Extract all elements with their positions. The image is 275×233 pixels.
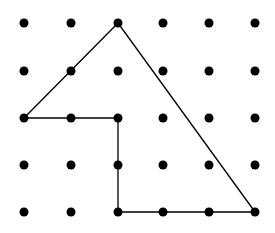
grid-dot [159, 19, 168, 28]
grid-dot [205, 208, 214, 217]
grid-dot [114, 114, 123, 123]
grid-dot [251, 19, 260, 28]
grid-dot [205, 161, 214, 170]
grid-dot [159, 208, 168, 217]
grid-dot [205, 114, 214, 123]
dot-grid-diagram [0, 0, 275, 233]
polygon-outline [24, 23, 255, 212]
grid-dot [67, 19, 76, 28]
polygon-shape [24, 23, 255, 212]
grid-dot [20, 19, 29, 28]
grid-dot [67, 67, 76, 76]
grid-dot [114, 19, 123, 28]
grid-dot [114, 67, 123, 76]
grid-dot [251, 67, 260, 76]
grid-dot [20, 208, 29, 217]
grid-dot [20, 114, 29, 123]
grid-dot [251, 161, 260, 170]
grid-dot [205, 19, 214, 28]
grid-dot [251, 208, 260, 217]
grid-dot [67, 114, 76, 123]
grid-dot [67, 161, 76, 170]
grid-dot [20, 161, 29, 170]
grid-dot [20, 67, 29, 76]
grid-dot [67, 208, 76, 217]
grid-dot [205, 67, 214, 76]
grid-dot [114, 208, 123, 217]
grid-dot [159, 161, 168, 170]
grid-dot [159, 67, 168, 76]
grid-dot [159, 114, 168, 123]
grid-dot [114, 161, 123, 170]
grid-dot [251, 114, 260, 123]
